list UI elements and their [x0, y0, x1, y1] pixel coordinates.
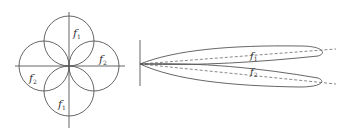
label-right: f2: [98, 53, 107, 66]
label-upper-beam: f1: [249, 50, 258, 62]
upper-beam-axis: [140, 49, 336, 64]
beam-pattern: [140, 40, 336, 87]
diagram-canvas: f1 f2 f2 f1 f1 f2: [0, 0, 348, 139]
four-lobe-pattern: [15, 12, 125, 128]
label-left: f2: [28, 72, 37, 85]
label-top: f1: [72, 27, 81, 40]
four-lobe-labels: f1 f2 f2 f1: [28, 27, 107, 111]
label-bottom: f1: [57, 98, 66, 111]
label-lower-beam: f2: [249, 66, 258, 78]
beam-labels: f1 f2: [249, 50, 258, 78]
